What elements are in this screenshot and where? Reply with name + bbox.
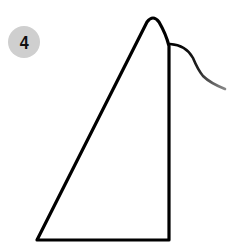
curved-tail bbox=[170, 44, 225, 89]
triangle-outline bbox=[37, 18, 169, 240]
drawing-illustration bbox=[0, 0, 236, 245]
